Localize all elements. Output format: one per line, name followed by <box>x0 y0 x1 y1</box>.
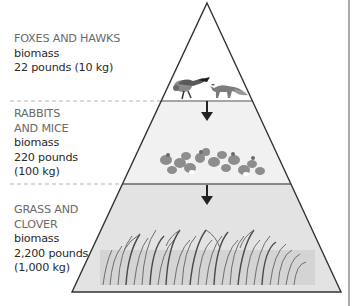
biomass-value: 220 pounds (100 kg) <box>14 151 78 180</box>
biomass-value: 2,200 pounds (1,000 kg) <box>14 247 88 276</box>
label-bottom-level: GRASS AND CLOVER biomass 2,200 pounds (1… <box>14 203 88 276</box>
label-top-level: FOXES AND HAWKS biomass 22 pounds (10 kg… <box>14 32 120 76</box>
label-middle-level: RABBITS AND MICE biomass 220 pounds (100… <box>14 107 78 180</box>
biomass-label: biomass <box>14 136 78 151</box>
biomass-label: biomass <box>14 47 120 62</box>
biomass-label: biomass <box>14 232 88 247</box>
organisms-label: RABBITS AND MICE <box>14 107 78 136</box>
energy-pyramid-diagram: FOXES AND HAWKS biomass 22 pounds (10 kg… <box>0 0 353 306</box>
biomass-value: 22 pounds (10 kg) <box>14 61 120 76</box>
organisms-label: GRASS AND CLOVER <box>14 203 88 232</box>
organisms-label: FOXES AND HAWKS <box>14 32 120 47</box>
